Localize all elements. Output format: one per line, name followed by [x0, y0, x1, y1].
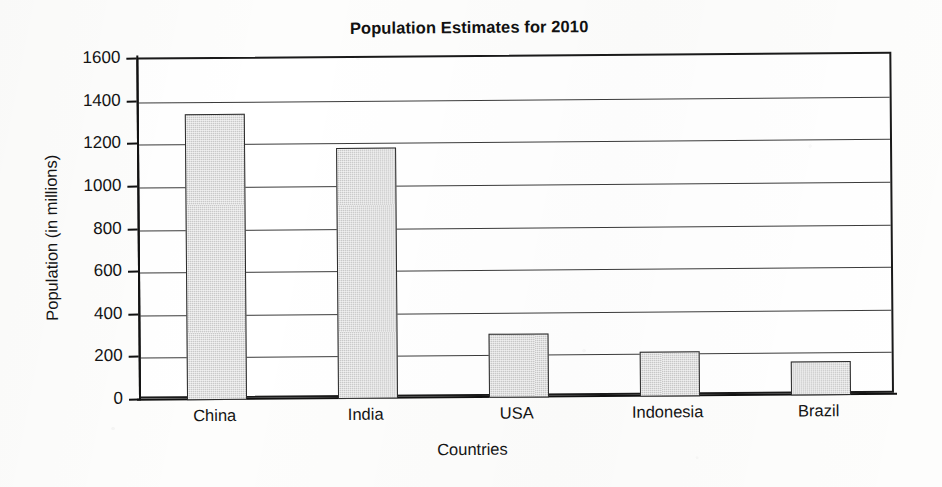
gridline [139, 139, 890, 146]
bar-indonesia [639, 351, 699, 396]
y-axis-tick-mark [127, 100, 137, 102]
y-axis-tick-mark [129, 356, 139, 358]
y-axis-tick-mark [128, 271, 138, 273]
gridline [140, 267, 891, 274]
x-axis-tick-label: China [193, 406, 236, 425]
y-axis-title: Population (in millions) [41, 108, 62, 368]
x-axis-tick-labels: ChinaIndiaUSAIndonesiaBrazil [0, 0, 940, 4]
gridline [139, 96, 890, 103]
gridlines [138, 54, 889, 60]
bar-brazil [790, 361, 850, 396]
gridline [139, 182, 890, 189]
bar-usa [488, 333, 549, 397]
y-axis-tick-label: 0 [51, 389, 123, 410]
bar-chart-figure: Population Estimates for 2010 1600140012… [0, 0, 942, 487]
x-axis-tick-label: Brazil [798, 401, 839, 420]
bar-india [336, 147, 398, 399]
x-axis-tick-label: USA [500, 404, 534, 423]
y-axis-tick-mark [129, 399, 139, 401]
x-axis-title: Countries [1, 436, 942, 462]
gridline [140, 309, 891, 316]
y-axis-tick-marks [0, 0, 940, 4]
gridline [140, 224, 891, 231]
y-axis-tick-mark [127, 185, 137, 187]
y-axis-tick-mark [128, 228, 138, 230]
y-axis-tick-mark [126, 58, 136, 60]
plot-area [136, 52, 894, 399]
y-axis-tick-label: 1600 [48, 48, 120, 69]
x-axis-tick-label: India [348, 405, 384, 424]
y-axis-tick-mark [127, 143, 137, 145]
y-axis-tick-mark [128, 313, 138, 315]
bars-group [138, 54, 889, 60]
chart-title: Population Estimates for 2010 [0, 14, 940, 40]
bar-china [184, 114, 246, 400]
x-axis-tick-label: Indonesia [632, 402, 704, 422]
